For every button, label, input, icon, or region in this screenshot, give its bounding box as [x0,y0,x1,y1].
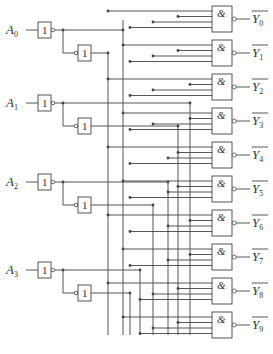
junction-dot [177,321,180,324]
output-label-y2: Y2 [252,79,263,96]
junction-dot [129,128,132,131]
inversion-bubble-icon [74,203,78,207]
junction-dot [129,60,132,63]
input-label: A2 [5,174,18,191]
output-label-y8: Y8 [252,283,263,300]
svg-text:1: 1 [42,97,48,109]
input-2: A211 [5,174,91,213]
svg-text:&: & [217,143,226,155]
inversion-bubble-icon [232,85,236,89]
svg-text:1: 1 [82,120,88,132]
junction-dot [129,230,132,233]
junction-dot [167,225,170,228]
junction-dot [177,15,180,18]
svg-text:1: 1 [82,199,88,211]
junction-dot [189,117,192,120]
junction-dot [122,112,125,115]
svg-text:&: & [217,7,226,19]
inversion-bubble-icon [232,255,236,259]
junction-dot [177,49,180,52]
output-label-y9: Y9 [252,317,263,334]
junction-dot [189,83,192,86]
inversion-bubble-icon [232,119,236,123]
output-label-y1: Y1 [252,45,263,62]
output-label-y5: Y5 [252,181,263,198]
inversion-bubble-icon [74,291,78,295]
svg-text:&: & [217,313,226,325]
junction-dot [129,94,132,97]
junction-dot [129,162,132,165]
input-3: A311 [5,262,91,301]
junction-dot [107,10,110,13]
inversion-bubble-icon [51,180,55,184]
input-label: A0 [5,22,18,39]
output-label-y6: Y6 [252,215,263,232]
inversion-bubble-icon [232,323,236,327]
junction-dot [122,44,125,47]
inversion-bubble-icon [51,101,55,105]
junction-dot [177,185,180,188]
inversion-bubble-icon [51,28,55,32]
svg-text:&: & [217,75,226,87]
inversion-bubble-icon [74,51,78,55]
output-label-y7: Y7 [252,249,263,266]
svg-text:&: & [217,177,226,189]
junction-dot [129,264,132,267]
svg-text:1: 1 [82,47,88,59]
svg-text:1: 1 [42,24,48,36]
svg-text:1: 1 [82,287,88,299]
inversion-bubble-icon [232,221,236,225]
junction-dot [167,259,170,262]
junction-dot [129,26,132,29]
junction-dot [152,55,155,58]
output-label-y0: Y0 [252,11,263,28]
inversion-bubble-icon [232,17,236,21]
junction-dot [177,287,180,290]
junction-dot [152,327,155,330]
inversion-bubble-icon [232,187,236,191]
junction-dot [122,316,125,319]
svg-text:&: & [217,109,226,121]
svg-text:&: & [217,245,226,257]
inversion-bubble-icon [51,268,55,272]
input-label: A1 [5,95,18,112]
svg-text:&: & [217,279,226,291]
svg-text:&: & [217,211,226,223]
inversion-bubble-icon [232,51,236,55]
junction-dot [122,248,125,251]
inversion-bubble-icon [232,289,236,293]
junction-dot [167,157,170,160]
junction-dot [177,151,180,154]
junction-dot [152,21,155,24]
junction-dot [107,146,110,149]
decoder-circuit-diagram: A011A111A211A311&Y0&Y1&Y2&Y3&Y4&Y5&Y6&Y7… [0,0,273,354]
svg-text:1: 1 [42,176,48,188]
junction-dot [107,214,110,217]
junction-dot [122,180,125,183]
inversion-bubble-icon [74,124,78,128]
junction-dot [189,219,192,222]
output-label-y4: Y4 [252,147,263,164]
junction-dot [107,282,110,285]
junction-dot [152,293,155,296]
input-label: A3 [5,262,18,279]
svg-text:1: 1 [42,264,48,276]
junction-dot [129,196,132,199]
input-1: A111 [5,95,91,134]
output-label-y3: Y3 [252,113,263,130]
junction-dot [152,123,155,126]
junction-dot [167,191,170,194]
junction-dot [139,298,142,301]
inversion-bubble-icon [232,153,236,157]
input-0: A011 [5,22,91,61]
junction-dot [152,89,155,92]
junction-dot [139,332,142,335]
junction-dot [189,253,192,256]
svg-text:&: & [217,41,226,53]
junction-dot [107,78,110,81]
